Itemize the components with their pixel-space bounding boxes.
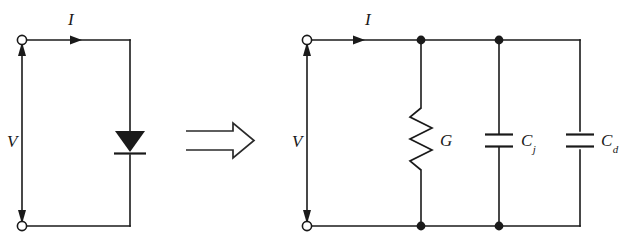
conductance-label: G xyxy=(440,132,452,149)
cj-symbol: C xyxy=(521,131,532,150)
left-bottom-terminal xyxy=(17,221,26,230)
cd-symbol: C xyxy=(601,131,612,150)
left-current-arrow xyxy=(70,36,82,45)
resistor-zigzag-icon xyxy=(410,108,432,170)
right-current-arrow xyxy=(353,36,365,45)
node-1-top xyxy=(417,36,426,45)
node-1-bottom xyxy=(417,222,426,231)
node-2-top xyxy=(495,36,504,45)
junction-capacitance-label: Cj xyxy=(521,132,535,152)
left-top-terminal xyxy=(17,35,26,44)
node-2-bottom xyxy=(495,222,504,231)
right-current-label: I xyxy=(365,11,371,28)
diffusion-capacitance-label: Cd xyxy=(601,132,618,152)
right-top-terminal xyxy=(302,35,311,44)
right-bottom-terminal xyxy=(302,221,311,230)
cd-subscript: d xyxy=(613,143,619,155)
implies-arrow-group xyxy=(186,123,254,158)
left-circuit-group xyxy=(17,35,146,230)
diode-triangle-icon xyxy=(115,131,145,152)
circuit-figure: I V I V G Cj Cd xyxy=(0,0,629,249)
implies-arrow-icon xyxy=(186,123,254,158)
right-voltage-label: V xyxy=(292,133,302,150)
cj-subscript: j xyxy=(533,143,536,155)
left-voltage-label: V xyxy=(7,133,17,150)
circuit-drawing xyxy=(0,0,629,249)
left-current-label: I xyxy=(68,11,74,28)
